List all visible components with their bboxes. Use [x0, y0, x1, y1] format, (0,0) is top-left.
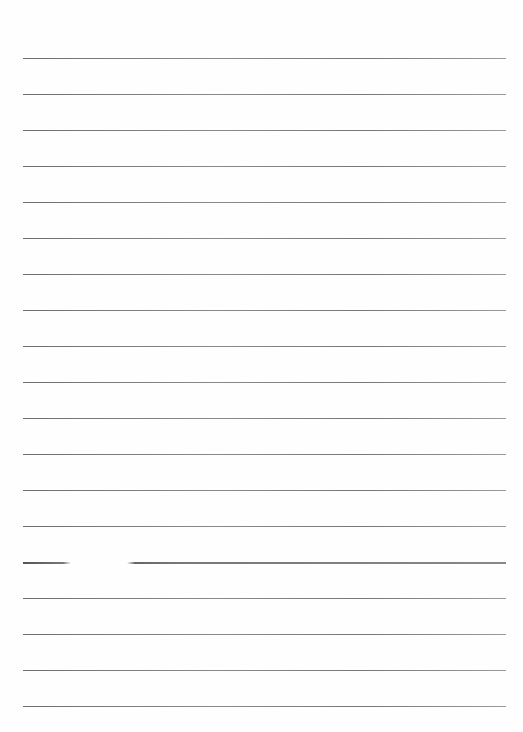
ruled-line	[23, 238, 506, 239]
ruled-line	[23, 382, 506, 383]
ruled-line	[23, 670, 506, 671]
ruled-line	[23, 94, 506, 95]
ruled-line	[23, 58, 506, 59]
ruled-line	[23, 706, 506, 707]
ruled-line	[23, 418, 506, 419]
ruled-line	[23, 166, 506, 167]
lined-paper-page	[0, 0, 523, 732]
ruled-line	[23, 454, 506, 455]
ruled-line	[23, 526, 506, 527]
ruled-line	[23, 130, 506, 131]
ruled-line	[23, 634, 506, 635]
ruled-line	[23, 274, 506, 275]
ruled-line	[23, 310, 506, 311]
ruled-line	[23, 490, 506, 491]
ruled-line	[23, 598, 506, 599]
ruled-line	[23, 562, 506, 564]
ruled-line	[23, 346, 506, 347]
ruled-line	[23, 202, 506, 203]
